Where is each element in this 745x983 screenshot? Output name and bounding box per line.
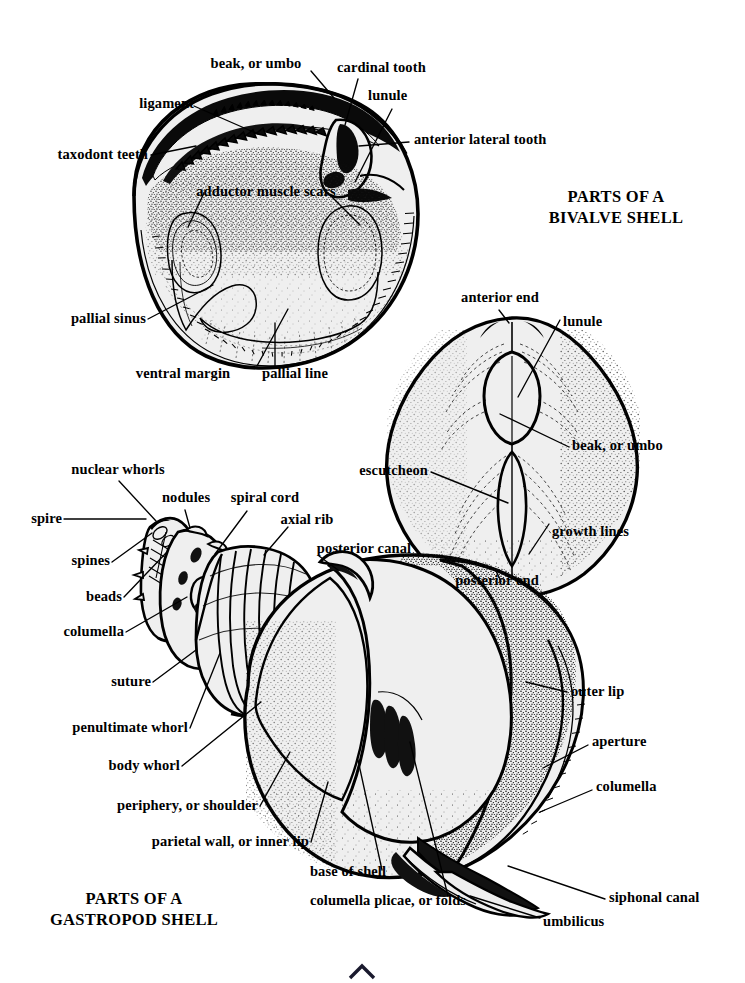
title-gastropod: PARTS OF A GASTROPOD SHELL	[50, 889, 218, 930]
bottom-chevron-mark	[350, 966, 374, 978]
label-aperture: aperture	[592, 734, 647, 749]
diagram-page: beak, or umbo cardinal tooth ligament lu…	[0, 0, 745, 983]
label-umbilicus: umbilicus	[543, 914, 604, 929]
label-posterior-canal: posterior canal	[317, 541, 411, 556]
label-beak-or-umbo-exterior: beak, or umbo	[572, 438, 663, 453]
title-bivalve-line2: BIVALVE SHELL	[549, 208, 684, 229]
bivalve-interior-figure	[134, 84, 418, 368]
label-columella-left: columella	[63, 624, 124, 639]
label-outer-lip: outer lip	[571, 684, 624, 699]
label-siphonal-canal: siphonal canal	[609, 890, 699, 905]
label-ligament: ligament	[139, 96, 194, 111]
label-lunule-interior: lunule	[368, 88, 407, 103]
label-pallial-sinus: pallial sinus	[71, 311, 146, 326]
title-bivalve-line1: PARTS OF A	[549, 187, 684, 208]
label-suture: suture	[111, 674, 151, 689]
label-cardinal-tooth: cardinal tooth	[337, 60, 426, 75]
label-columella-right: columella	[596, 779, 657, 794]
label-spiral-cord: spiral cord	[231, 490, 299, 505]
label-anterior-lateral-tooth: anterior lateral tooth	[414, 132, 546, 147]
label-beads: beads	[86, 589, 122, 604]
label-spines: spines	[72, 553, 110, 568]
label-lunule-exterior: lunule	[563, 314, 602, 329]
label-body-whorl: body whorl	[108, 758, 180, 773]
label-periphery-or-shoulder: periphery, or shoulder	[117, 798, 258, 813]
label-taxodont-teeth: taxodont teeth	[58, 147, 148, 162]
label-axial-rib: axial rib	[281, 512, 334, 527]
label-posterior-end: posterior end	[455, 573, 539, 588]
label-penultimate-whorl: penultimate whorl	[72, 720, 188, 735]
label-nuclear-whorls: nuclear whorls	[71, 462, 164, 477]
title-gastropod-line1: PARTS OF A	[50, 889, 218, 910]
label-growth-lines: growth lines	[552, 524, 629, 539]
label-columella-plicae-or-folds: columella plicae, or folds	[310, 893, 466, 908]
label-spire: spire	[31, 511, 62, 526]
label-parietal-wall-or-inner-lip: parietal wall, or inner lip	[152, 834, 309, 849]
label-escutcheon: escutcheon	[359, 463, 428, 478]
label-pallial-line: pallial line	[262, 366, 328, 381]
title-bivalve: PARTS OF A BIVALVE SHELL	[549, 187, 684, 228]
label-anterior-end: anterior end	[461, 290, 539, 305]
label-nodules: nodules	[162, 490, 210, 505]
title-gastropod-line2: GASTROPOD SHELL	[50, 910, 218, 931]
bivalve-exterior-figure	[387, 318, 640, 600]
label-adductor-muscle-scars: adductor muscle scars	[196, 184, 336, 199]
label-ventral-margin: ventral margin	[136, 366, 230, 381]
label-base-of-shell: base of shell	[310, 864, 386, 879]
label-beak-or-umbo-interior: beak, or umbo	[211, 56, 302, 71]
